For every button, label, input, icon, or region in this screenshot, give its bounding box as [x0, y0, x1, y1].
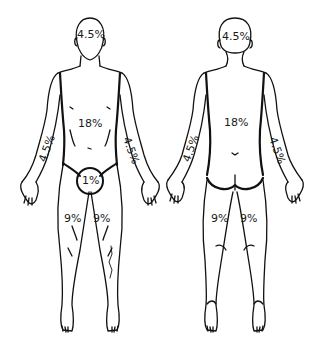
back-head-label: 4.5% — [222, 31, 250, 42]
back-right-leg-label: 9% — [240, 213, 257, 224]
back-trunk-label: 18% — [224, 117, 248, 128]
body-outlines — [0, 0, 318, 355]
front-head-label: 4.5% — [77, 29, 105, 40]
front-trunk-label: 18% — [78, 118, 102, 129]
front-right-leg-label: 9% — [93, 213, 110, 224]
back-left-leg-label: 9% — [211, 213, 228, 224]
back-figure-outline — [167, 18, 304, 332]
front-genital-label: 1% — [82, 175, 99, 186]
front-left-leg-label: 9% — [64, 213, 81, 224]
rule-of-nines-diagram: 4.5% 18% 4.5% 4.5% 1% 9% 9% 4.5% 18% 4.5… — [0, 0, 318, 355]
